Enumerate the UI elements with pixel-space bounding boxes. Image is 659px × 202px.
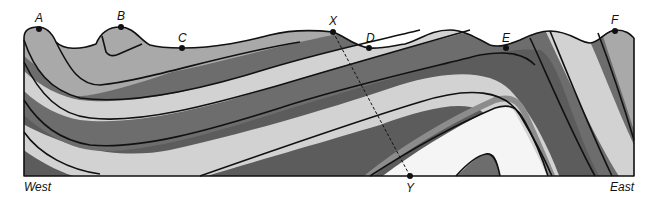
label-y: Y	[406, 181, 415, 195]
cross-section-diagram: A B C X D E F Y West East	[0, 0, 659, 202]
point-e-marker	[503, 45, 509, 51]
point-a-marker	[36, 26, 42, 32]
point-b-marker	[118, 24, 124, 30]
strata	[0, 0, 659, 202]
label-a: A	[34, 11, 43, 25]
direction-east: East	[610, 180, 635, 194]
label-b: B	[117, 9, 125, 23]
label-d: D	[366, 31, 375, 45]
point-f-marker	[612, 28, 618, 34]
point-c-marker	[179, 45, 185, 51]
label-c: C	[178, 31, 187, 45]
label-x: X	[328, 14, 338, 28]
direction-west: West	[24, 180, 52, 194]
point-x-marker	[330, 29, 336, 35]
label-f: F	[611, 13, 619, 27]
label-e: E	[502, 31, 511, 45]
point-d-marker	[366, 45, 372, 51]
point-y-marker	[407, 173, 413, 179]
